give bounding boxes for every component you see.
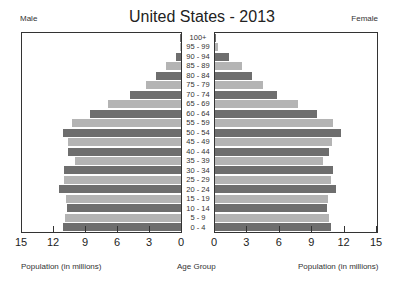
age-group-label: 95 - 99 <box>181 42 215 51</box>
x-tick <box>344 226 345 232</box>
female-bar <box>215 138 332 146</box>
x-tick-label: 6 <box>269 236 289 248</box>
male-bar <box>65 214 181 222</box>
age-group-label: 25 - 29 <box>181 175 215 184</box>
x-tick <box>149 226 150 232</box>
x-tick-label: 0 <box>171 236 191 248</box>
male-bar <box>146 81 181 89</box>
male-bar <box>90 110 181 118</box>
male-bar <box>66 195 181 203</box>
age-group-label: 85 - 89 <box>181 61 215 70</box>
male-bar <box>156 72 181 80</box>
female-label: Female <box>351 14 378 23</box>
x-tick <box>376 226 377 232</box>
x-tick-label: 6 <box>107 236 127 248</box>
female-bar <box>215 214 329 222</box>
female-bar <box>215 166 333 174</box>
male-bar <box>68 148 181 156</box>
age-group-label: 70 - 74 <box>181 90 215 99</box>
female-bar <box>215 204 327 212</box>
x-tick-label: 15 <box>11 236 31 248</box>
y-axis-title: Age Group <box>177 262 216 271</box>
female-bar <box>215 195 328 203</box>
male-bar <box>67 204 181 212</box>
x-tick-label: 12 <box>43 236 63 248</box>
x-tick <box>181 226 182 232</box>
male-x-axis <box>21 232 182 233</box>
age-group-label: 5 - 9 <box>181 213 215 222</box>
x-tick-label: 0 <box>204 236 224 248</box>
age-group-label: 90 - 94 <box>181 52 215 61</box>
chart-title: United States - 2013 <box>0 8 404 26</box>
age-group-label: 10 - 14 <box>181 204 215 213</box>
female-bar <box>215 148 329 156</box>
male-bar <box>64 166 181 174</box>
male-bar <box>75 157 181 165</box>
x-tick <box>246 226 247 232</box>
female-bar <box>215 53 229 61</box>
age-group-label: 75 - 79 <box>181 80 215 89</box>
x-tick <box>117 226 118 232</box>
female-bar <box>215 72 252 80</box>
age-group-label: 35 - 39 <box>181 156 215 165</box>
male-bar <box>68 138 181 146</box>
female-bar <box>215 34 216 42</box>
x-tick-label: 15 <box>366 236 386 248</box>
age-group-label: 65 - 69 <box>181 99 215 108</box>
female-bar <box>215 62 242 70</box>
x-tick <box>21 226 22 232</box>
x-tick <box>53 226 54 232</box>
age-group-label: 15 - 19 <box>181 194 215 203</box>
male-bar <box>63 129 181 137</box>
female-bar <box>215 185 336 193</box>
female-bar <box>215 81 263 89</box>
x-tick-label: 9 <box>75 236 95 248</box>
male-label: Male <box>20 14 37 23</box>
male-bar <box>64 176 181 184</box>
x-tick <box>214 226 215 232</box>
x-tick <box>311 226 312 232</box>
x-tick-label: 3 <box>139 236 159 248</box>
male-bar <box>72 119 181 127</box>
x-tick-label: 12 <box>334 236 354 248</box>
age-group-label: 100+ <box>181 33 215 42</box>
male-bar <box>130 91 181 99</box>
female-bar <box>215 43 218 51</box>
female-bar <box>215 110 317 118</box>
male-bar <box>166 62 181 70</box>
female-bar <box>215 157 323 165</box>
age-group-label: 60 - 64 <box>181 109 215 118</box>
x-tick <box>279 226 280 232</box>
age-group-label: 20 - 24 <box>181 185 215 194</box>
female-bar <box>215 91 277 99</box>
female-bar <box>215 129 341 137</box>
female-x-axis-title: Population (in millions) <box>298 262 378 271</box>
age-group-label: 80 - 84 <box>181 71 215 80</box>
female-bar <box>215 176 331 184</box>
male-x-axis-title: Population (in millions) <box>21 262 101 271</box>
age-group-label: 50 - 54 <box>181 128 215 137</box>
x-tick-label: 9 <box>301 236 321 248</box>
x-tick <box>85 226 86 232</box>
female-bar <box>215 223 331 231</box>
age-group-label: 30 - 34 <box>181 166 215 175</box>
female-x-axis <box>214 232 378 233</box>
male-bar <box>108 100 181 108</box>
age-group-label: 55 - 59 <box>181 118 215 127</box>
age-group-label: 45 - 49 <box>181 137 215 146</box>
male-bar <box>63 223 181 231</box>
x-tick-label: 3 <box>236 236 256 248</box>
age-group-label: 0 - 4 <box>181 223 215 232</box>
female-bar <box>215 100 298 108</box>
female-bar <box>215 119 333 127</box>
age-group-label: 40 - 44 <box>181 147 215 156</box>
male-bar <box>59 185 181 193</box>
